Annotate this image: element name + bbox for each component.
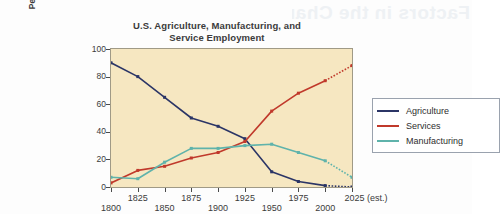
data-point-agriculture-2000 — [324, 184, 327, 187]
data-point-agriculture-1975 — [297, 180, 300, 183]
legend-item-services[interactable]: Services — [377, 118, 494, 133]
legend-item-agriculture[interactable]: Agriculture — [377, 103, 494, 118]
legend-label: Agriculture — [406, 106, 449, 116]
y-tick-label: 40 — [80, 126, 106, 136]
data-point-services-1900 — [217, 151, 220, 154]
x-tick-label: 1900 — [208, 203, 228, 213]
series-line-services — [111, 81, 325, 183]
employment-line-chart: U.S. Agriculture, Manufacturing, and Ser… — [40, 16, 432, 198]
x-tick-label: 2000 — [315, 203, 335, 213]
data-point-manufacturing-1825 — [136, 177, 139, 180]
data-point-services-1925 — [243, 140, 246, 143]
data-point-manufacturing-1875 — [190, 147, 193, 150]
data-point-services-1875 — [190, 157, 193, 160]
y-tick-label: 80 — [80, 71, 106, 81]
data-point-services-1800 — [111, 181, 113, 184]
legend-swatch-icon — [377, 110, 399, 112]
legend-item-manufacturing[interactable]: Manufacturing — [377, 133, 494, 148]
data-point-agriculture-1875 — [190, 117, 193, 120]
y-tick-label: 100 — [80, 44, 106, 54]
data-point-manufacturing-2025 (est.) — [351, 176, 353, 179]
y-axis-tick-labels: 020406080100 — [76, 48, 106, 188]
chart-legend: AgricultureServicesManufacturing — [372, 98, 500, 153]
x-tick-label: 1950 — [262, 203, 282, 213]
legend-label: Services — [406, 121, 441, 131]
legend-swatch-icon — [377, 140, 399, 142]
x-tick-label: 1800 — [101, 203, 121, 213]
data-point-manufacturing-1975 — [297, 151, 300, 154]
data-point-manufacturing-1800 — [111, 176, 113, 179]
chart-title-line-2: Service Employment — [169, 32, 264, 43]
data-point-agriculture-1950 — [270, 170, 273, 173]
x-tick-label: 1850 — [155, 203, 175, 213]
data-point-manufacturing-1925 — [243, 144, 246, 147]
plot-lines — [111, 49, 352, 187]
data-point-services-1850 — [163, 165, 166, 168]
y-axis-label: Percent of workforce — [27, 0, 37, 36]
x-tick-label: 1975 — [288, 193, 308, 203]
data-point-manufacturing-1850 — [163, 161, 166, 164]
data-point-agriculture-1900 — [217, 125, 220, 128]
series-line-services — [325, 66, 352, 81]
data-point-agriculture-1800 — [111, 61, 113, 64]
data-point-services-2000 — [324, 79, 327, 82]
chart-title: U.S. Agriculture, Manufacturing, and Ser… — [102, 20, 332, 43]
data-point-services-1825 — [136, 169, 139, 172]
x-tick-label: 1925 — [235, 193, 255, 203]
x-tick-label: 1875 — [181, 193, 201, 203]
x-tick-label: 2025 (est.) — [344, 193, 387, 203]
y-tick-label: 20 — [80, 154, 106, 164]
plot-area — [110, 48, 353, 188]
chart-title-line-1: U.S. Agriculture, Manufacturing, and — [133, 20, 301, 31]
legend-swatch-icon — [377, 125, 399, 127]
x-tick-label: 1825 — [128, 193, 148, 203]
data-point-manufacturing-1900 — [217, 147, 220, 150]
y-tick-label: 60 — [80, 99, 106, 109]
data-point-services-1975 — [297, 92, 300, 95]
series-line-agriculture — [111, 63, 325, 186]
data-point-manufacturing-1950 — [270, 143, 273, 146]
data-point-agriculture-1850 — [163, 96, 166, 99]
data-point-manufacturing-2000 — [324, 159, 327, 162]
data-point-agriculture-2025 (est.) — [351, 186, 353, 188]
series-line-manufacturing — [325, 161, 352, 178]
data-point-services-1950 — [270, 110, 273, 113]
y-tick-label: 0 — [80, 182, 106, 192]
series-line-agriculture — [325, 186, 352, 187]
data-point-agriculture-1825 — [136, 75, 139, 78]
data-point-services-2025 (est.) — [351, 64, 353, 67]
x-axis-tick-labels: 1800182518501875190019251950197520002025… — [40, 192, 504, 220]
legend-label: Manufacturing — [406, 136, 463, 146]
